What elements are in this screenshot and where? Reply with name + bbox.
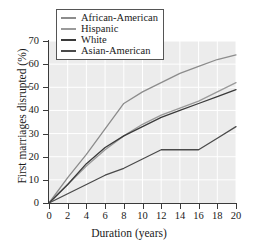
legend-swatch-icon (61, 17, 76, 19)
y-tick (43, 180, 48, 181)
legend-label: Asian-American (81, 45, 150, 56)
chart-figure: 010203040506070 02468101214161820 Durati… (0, 0, 258, 251)
x-tick (124, 204, 125, 209)
y-tick (43, 64, 48, 65)
series-line (49, 83, 236, 203)
y-tick (43, 41, 48, 42)
y-axis-line (48, 40, 49, 204)
plot-area (49, 41, 236, 203)
legend-label: African-American (81, 12, 158, 23)
x-tick (199, 204, 200, 209)
y-axis-title: First marriages disrupted (%) (16, 31, 28, 201)
y-tick (43, 87, 48, 88)
y-tick (43, 157, 48, 158)
legend-label: Hispanic (81, 23, 118, 34)
series-line (49, 127, 236, 203)
x-tick (161, 204, 162, 209)
y-tick (43, 110, 48, 111)
chart-legend: African-AmericanHispanicWhiteAsian-Ameri… (56, 9, 164, 60)
x-tick (236, 204, 237, 209)
legend-swatch-icon (61, 28, 76, 30)
series-line (49, 55, 236, 203)
y-tick (43, 134, 48, 135)
x-tick-label: 20 (224, 210, 248, 221)
legend-swatch-icon (61, 39, 76, 41)
x-tick (217, 204, 218, 209)
x-tick (49, 204, 50, 209)
y-tick (43, 203, 48, 204)
series-line (49, 90, 236, 203)
legend-label: White (81, 34, 107, 45)
legend-item: African-American (61, 12, 158, 23)
legend-item: Asian-American (61, 45, 158, 56)
legend-item: White (61, 34, 158, 45)
x-axis-title: Duration (years) (0, 227, 258, 239)
x-tick (105, 204, 106, 209)
series-lines (49, 41, 236, 203)
x-tick (180, 204, 181, 209)
legend-swatch-icon (61, 50, 76, 52)
x-tick (68, 204, 69, 209)
legend-item: Hispanic (61, 23, 158, 34)
x-tick (86, 204, 87, 209)
x-tick (143, 204, 144, 209)
